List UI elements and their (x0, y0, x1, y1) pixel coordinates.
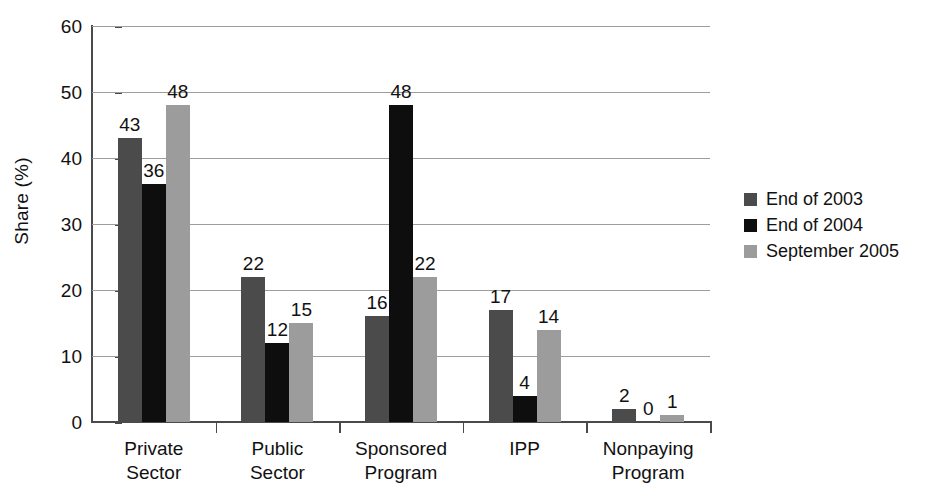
legend-swatch-icon (744, 245, 757, 258)
legend-item[interactable]: September 2005 (744, 238, 934, 264)
x-category-label-line: Program (316, 461, 486, 485)
bar-group: 201 (612, 26, 684, 422)
bar[interactable] (265, 343, 289, 422)
bar[interactable] (413, 277, 437, 422)
bar-value-label: 48 (158, 82, 198, 101)
y-tick-label: 10 (38, 347, 82, 366)
bar[interactable] (241, 277, 265, 422)
x-category-separator (216, 421, 218, 433)
legend-label: End of 2004 (766, 216, 863, 234)
bar[interactable] (365, 316, 389, 422)
legend-label: September 2005 (766, 242, 899, 260)
bar[interactable] (660, 415, 684, 422)
legend-item[interactable]: End of 2003 (744, 186, 934, 212)
chart-legend: End of 2003End of 2004September 2005 (744, 186, 934, 264)
bar-value-label: 48 (381, 82, 421, 101)
bar[interactable] (118, 138, 142, 422)
bar-value-label: 15 (281, 300, 321, 319)
x-category-label: NonpayingProgram (563, 437, 733, 485)
bar[interactable] (142, 184, 166, 422)
legend-label: End of 2003 (766, 190, 863, 208)
bar[interactable] (537, 330, 561, 422)
bar-value-label: 17 (481, 287, 521, 306)
x-category-separator (339, 421, 341, 433)
legend-swatch-icon (744, 193, 757, 206)
x-axis-end-tick (710, 421, 712, 433)
plot-area: 43364822121516482217414201 (92, 26, 710, 422)
y-tick-label: 30 (38, 215, 82, 234)
bar-group: 164822 (365, 26, 437, 422)
y-tick-label: 20 (38, 281, 82, 300)
bar[interactable] (166, 105, 190, 422)
bar[interactable] (489, 310, 513, 422)
bar-value-label: 1 (652, 392, 692, 411)
x-category-separator (463, 421, 465, 433)
x-category-label-line: Nonpaying (563, 437, 733, 461)
bar-group: 17414 (489, 26, 561, 422)
bar-value-label: 22 (405, 254, 445, 273)
y-axis-ticks: 0102030405060 (30, 0, 82, 499)
y-tick-label: 60 (38, 17, 82, 36)
legend-swatch-icon (744, 219, 757, 232)
legend-item[interactable]: End of 2004 (744, 212, 934, 238)
x-category-separator (586, 421, 588, 433)
bar-value-label: 43 (110, 115, 150, 134)
bar-chart: Share (%) 0102030405060 4336482212151648… (0, 0, 934, 499)
bar-group: 433648 (118, 26, 190, 422)
bar-value-label: 14 (529, 307, 569, 326)
bar[interactable] (513, 396, 537, 422)
y-tick-label: 40 (38, 149, 82, 168)
bar-group: 221215 (241, 26, 313, 422)
x-category-label-line: Program (563, 461, 733, 485)
bar[interactable] (289, 323, 313, 422)
y-tick-label: 50 (38, 83, 82, 102)
bar-value-label: 22 (233, 254, 273, 273)
y-tick-label: 0 (38, 413, 82, 432)
